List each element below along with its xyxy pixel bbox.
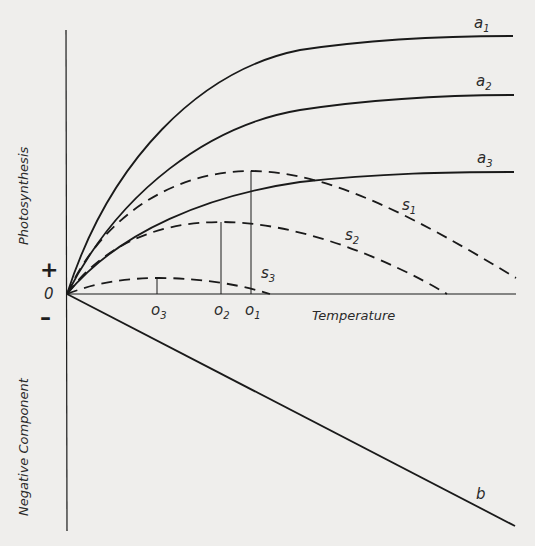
label-s1-sub: 1 xyxy=(410,205,416,216)
plus-sign: + xyxy=(40,259,58,281)
label-a2: a2 xyxy=(476,74,492,89)
y-axis-label-photosynthesis: Photosynthesis xyxy=(16,147,31,245)
label-a2-letter: a xyxy=(476,72,485,90)
label-b: b xyxy=(476,487,486,502)
origin-label: 0 xyxy=(44,287,54,302)
label-o2: o2 xyxy=(214,303,230,318)
label-s2: s2 xyxy=(345,228,359,243)
label-s1: s1 xyxy=(402,198,416,213)
label-a2-sub: 2 xyxy=(485,81,491,92)
label-o2-letter: o xyxy=(214,301,223,319)
label-a3-letter: a xyxy=(477,149,486,167)
label-o2-sub: 2 xyxy=(223,310,229,321)
label-o3-letter: o xyxy=(151,301,160,319)
y-axis xyxy=(66,30,67,531)
label-o1-letter: o xyxy=(245,301,254,319)
label-s2-sub: 2 xyxy=(353,235,359,246)
curve-s1 xyxy=(67,171,516,294)
label-a3-sub: 3 xyxy=(486,158,492,169)
curve-s3 xyxy=(67,278,270,294)
diagram-canvas: a1 a2 a3 s1 s2 s3 b o3 o2 o1 Temperature… xyxy=(0,0,535,546)
label-o3-sub: 3 xyxy=(160,310,166,321)
label-s3: s3 xyxy=(261,266,275,281)
curve-a1 xyxy=(67,36,513,294)
label-s3-sub: 3 xyxy=(269,273,275,284)
label-o3: o3 xyxy=(151,303,167,318)
minus-sign: – xyxy=(40,307,51,329)
x-axis-label: Temperature xyxy=(312,309,395,322)
label-a1: a1 xyxy=(474,16,490,31)
label-s2-letter: s xyxy=(345,226,353,244)
curve-a2 xyxy=(67,95,514,294)
label-a1-sub: 1 xyxy=(483,23,489,34)
line-b xyxy=(67,294,515,526)
label-a3: a3 xyxy=(477,151,493,166)
curve-s2 xyxy=(67,222,447,294)
label-s3-letter: s xyxy=(261,264,269,282)
label-o1-sub: 1 xyxy=(254,310,260,321)
curve-a3 xyxy=(67,172,514,294)
label-o1: o1 xyxy=(245,303,261,318)
y-axis-label-negative-component: Negative Component xyxy=(16,378,31,516)
label-b-letter: b xyxy=(476,485,486,503)
label-s1-letter: s xyxy=(402,196,410,214)
label-a1-letter: a xyxy=(474,14,483,32)
